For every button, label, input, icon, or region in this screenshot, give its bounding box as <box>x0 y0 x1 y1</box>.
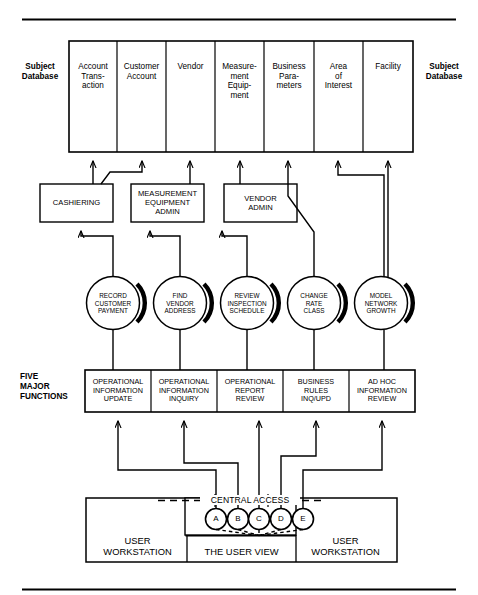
text-line: PAYMENT <box>86 307 140 315</box>
zone-the-user-view: THE USER VIEW <box>187 546 296 557</box>
circle-find-vendor-address[interactable]: FINDVENDORADDRESS <box>153 292 207 315</box>
fn-operational-information-update[interactable]: OPERATIONALINFORMATIONUPDATE <box>85 378 151 404</box>
text-line: Account <box>69 62 117 72</box>
fn-ad-hoc-information-review[interactable]: AD HOCINFORMATIONREVIEW <box>349 378 415 404</box>
text-line: Area <box>314 62 363 72</box>
text-line: Trans- <box>69 72 117 82</box>
db-cell-vendor[interactable]: Vendor <box>166 62 215 72</box>
central-access-label: CENTRAL ACCESS <box>200 495 300 505</box>
text-line: REVIEW <box>219 292 275 300</box>
text-line: WORKSTATION <box>296 546 395 557</box>
text-line: REVIEW <box>349 395 415 404</box>
zone-user-workstation-left: USERWORKSTATION <box>88 535 187 557</box>
text-line: UPDATE <box>85 395 151 404</box>
text-line: USER <box>296 535 395 546</box>
text-line: ADMIN <box>224 203 297 212</box>
app-box-vendor-admin[interactable]: VENDORADMIN <box>224 194 297 212</box>
fn-operational-report-review[interactable]: OPERATIONALREPORTREVIEW <box>217 378 283 404</box>
circle-model-network-growth[interactable]: MODELNETWORKGROWTH <box>354 292 408 315</box>
db-cell-customer-account[interactable]: CustomerAccount <box>117 62 166 81</box>
db-cell-business-parameters[interactable]: BusinessPara-meters <box>264 62 314 91</box>
text-line: FUNCTIONS <box>20 392 82 402</box>
connectors-to-applications <box>81 231 247 277</box>
fn-business-rules-inq-upd[interactable]: BUSINESSRULESINQ/UPD <box>283 378 349 404</box>
text-line: meters <box>264 81 314 91</box>
circle-record-customer-payment[interactable]: RECORDCUSTOMERPAYMENT <box>86 292 140 315</box>
connectors-functions-to-transactions <box>113 330 384 370</box>
zone-user-workstation-right: USERWORKSTATION <box>296 535 395 557</box>
text-line: CHANGE <box>287 292 341 300</box>
db-cell-area-of-interest[interactable]: AreaofInterest <box>314 62 363 91</box>
db-cell-measurement-equipment[interactable]: Measure-mentEquip-ment <box>215 62 264 100</box>
text-line: Equip- <box>215 81 264 91</box>
text-line: FIND <box>153 292 207 300</box>
text-line: Para- <box>264 72 314 82</box>
text-line: THE USER VIEW <box>187 546 296 557</box>
text-line: Account <box>117 72 166 82</box>
text-line: ment <box>215 72 264 82</box>
label-subject-database-right: Subject Database <box>416 62 472 82</box>
text-line: action <box>69 81 117 91</box>
diagram-canvas: Subject Database Subject Database FIVEMA… <box>0 0 478 595</box>
db-cell-account-transaction[interactable]: AccountTrans-action <box>69 62 117 91</box>
app-box-cashiering[interactable]: CASHIERING <box>40 198 113 207</box>
text-line: of <box>314 72 363 82</box>
node-e[interactable]: E <box>293 515 313 523</box>
text-line: VENDOR <box>224 194 297 203</box>
text-line: MAJOR <box>20 382 82 392</box>
text-line: RECORD <box>86 292 140 300</box>
text-line: EQUIPMENT <box>131 198 204 207</box>
text-line: NETWORK <box>354 300 408 308</box>
text-line: Customer <box>117 62 166 72</box>
text-line: ment <box>215 91 264 101</box>
label-subject-database-left: Subject Database <box>14 62 66 82</box>
text-line: USER <box>88 535 187 546</box>
text-line: MEASUREMENT <box>131 189 204 198</box>
text-line: CLASS <box>287 307 341 315</box>
text-line: RATE <box>287 300 341 308</box>
text-line: INQUIRY <box>151 395 217 404</box>
text-line: MODEL <box>354 292 408 300</box>
text-line: FIVE <box>20 372 82 382</box>
text-line: GROWTH <box>354 307 408 315</box>
text-line: SCHEDULE <box>219 307 275 315</box>
text-line: Vendor <box>166 62 215 72</box>
text-line: ADDRESS <box>153 307 207 315</box>
text-line: VENDOR <box>153 300 207 308</box>
text-line: CUSTOMER <box>86 300 140 308</box>
node-a[interactable]: A <box>206 515 226 523</box>
db-cell-facility[interactable]: Facility <box>363 62 413 72</box>
node-b[interactable]: B <box>228 515 248 523</box>
text-line: INSPECTION <box>219 300 275 308</box>
text-line: Business <box>264 62 314 72</box>
circle-review-inspection-schedule[interactable]: REVIEWINSPECTIONSCHEDULE <box>219 292 275 315</box>
text-line: ADMIN <box>131 207 204 216</box>
label-five-major-functions: FIVEMAJORFUNCTIONS <box>20 372 82 402</box>
fn-operational-information-inquiry[interactable]: OPERATIONALINFORMATIONINQUIRY <box>151 378 217 404</box>
circle-change-rate-class[interactable]: CHANGERATECLASS <box>287 292 341 315</box>
text-line: REVIEW <box>217 395 283 404</box>
text-line: Interest <box>314 81 363 91</box>
node-d[interactable]: D <box>271 515 291 523</box>
text-line: Facility <box>363 62 413 72</box>
text-line: WORKSTATION <box>88 546 187 557</box>
text-line: Measure- <box>215 62 264 72</box>
text-line: CASHIERING <box>40 198 113 207</box>
node-c[interactable]: C <box>249 515 269 523</box>
app-box-measurement-equipment-admin[interactable]: MEASUREMENTEQUIPMENTADMIN <box>131 189 204 216</box>
text-line: INQ/UPD <box>283 395 349 404</box>
